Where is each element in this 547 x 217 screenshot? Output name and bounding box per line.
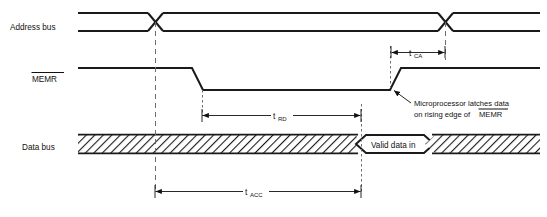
timing-measure-t-ca: t CA xyxy=(391,46,445,59)
t-ca-subscript: CA xyxy=(414,53,422,59)
annotation-line-2-prefix: on rising edge of xyxy=(414,110,471,119)
data-bus-invalid-right xyxy=(425,135,540,153)
waveform-address-bus xyxy=(78,13,540,31)
t-acc-subscript: ACC xyxy=(250,192,263,198)
signal-label-memr-group: MEMR xyxy=(32,73,65,85)
signal-label-address-bus: Address bus xyxy=(10,23,56,32)
signal-label-data-bus: Data bus xyxy=(22,143,55,152)
signal-label-memr: MEMR xyxy=(32,75,57,84)
timing-measure-t-rd: t RD xyxy=(202,108,361,122)
timing-diagram-canvas: Address bus MEMR Data bus xyxy=(0,0,547,217)
timing-diagram-root: Address bus MEMR Data bus xyxy=(0,0,547,217)
valid-data-label: Valid data in xyxy=(371,141,416,150)
annotation-line-2-signal: MEMR xyxy=(479,110,503,119)
annotation-line-1: Microprocessor latches data xyxy=(414,99,510,108)
waveform-memr xyxy=(78,68,540,90)
data-bus-invalid-left xyxy=(78,135,365,153)
callout-arrow-icon xyxy=(394,91,411,104)
waveform-data-bus: Valid data in xyxy=(78,135,540,154)
t-rd-subscript: RD xyxy=(278,116,287,122)
timing-measure-t-acc: t ACC xyxy=(155,184,361,198)
annotation-latch-note: Microprocessor latches data on rising ed… xyxy=(394,91,510,120)
